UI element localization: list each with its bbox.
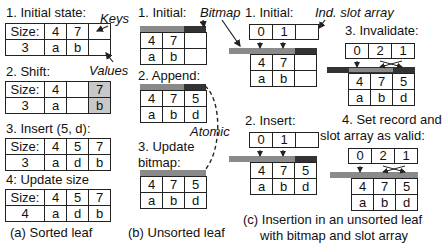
values-arrow: [106, 53, 113, 62]
bitmap-arrow-b: [203, 20, 204, 27]
atomic-dashed-curve: [205, 86, 218, 170]
keys-arrow: [97, 26, 108, 31]
bitmap-arrow-c: [222, 20, 240, 46]
slot-array-arrow: [319, 20, 325, 28]
